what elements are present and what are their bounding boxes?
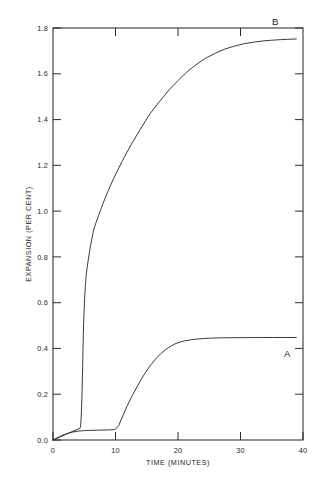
x-tick-label: 0 xyxy=(51,446,55,455)
x-tick-labels: 0 10 20 30 40 xyxy=(51,446,307,455)
y-tick-label: 1.4 xyxy=(37,115,48,124)
x-tick-label: 10 xyxy=(111,446,120,455)
plot-frame xyxy=(53,28,303,440)
y-tick-label: 1.2 xyxy=(37,161,48,170)
y-tick-label: 0.2 xyxy=(37,390,48,399)
x-tick-label: 20 xyxy=(174,446,183,455)
x-tick-label: 30 xyxy=(236,446,245,455)
curve-a xyxy=(53,338,296,441)
y-tick-labels: 0.0 0.2 0.4 0.6 0.8 1.0 1.2 1.4 1.6 1.8 xyxy=(37,24,48,445)
y-axis-ticks xyxy=(53,28,61,440)
expansion-vs-time-chart: 0.0 0.2 0.4 0.6 0.8 1.0 1.2 1.4 1.6 1.8 … xyxy=(0,0,332,483)
right-axis-ticks xyxy=(295,28,303,394)
curve-label-b: B xyxy=(272,16,279,27)
y-tick-label: 0.6 xyxy=(37,298,48,307)
curve-b xyxy=(53,39,296,440)
x-axis-ticks xyxy=(53,432,303,440)
figure-container: 0.0 0.2 0.4 0.6 0.8 1.0 1.2 1.4 1.6 1.8 … xyxy=(0,0,332,483)
x-tick-label: 40 xyxy=(299,446,308,455)
y-tick-label: 1.8 xyxy=(37,24,48,33)
y-tick-label: 1.0 xyxy=(37,207,48,216)
curve-label-a: A xyxy=(284,348,291,359)
y-tick-label: 1.6 xyxy=(37,69,48,78)
top-axis-ticks xyxy=(116,28,241,36)
y-axis-title: EXPANSION (PER CENT) xyxy=(24,186,33,282)
x-axis-title: TIME (MINUTES) xyxy=(146,458,210,467)
y-tick-label: 0.0 xyxy=(37,436,48,445)
y-tick-label: 0.4 xyxy=(37,344,48,353)
y-tick-label: 0.8 xyxy=(37,253,48,262)
